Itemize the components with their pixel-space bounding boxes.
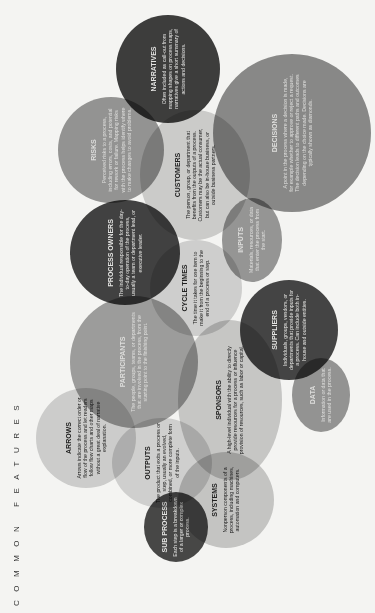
- inputs-title: INPUTS: [237, 227, 245, 253]
- inputs-desc: Materials, resources, or data that enter…: [248, 205, 267, 275]
- participants-desc: The people, groups, teams, or department…: [130, 312, 149, 412]
- process-owners-desc: The individual responsible for the day-t…: [118, 209, 143, 297]
- process-owners-title: PROCESS OWNERS: [107, 219, 115, 287]
- narratives-desc: Often included as call-out from mapping …: [161, 27, 186, 111]
- customers-desc: The person, group, or department that be…: [185, 127, 216, 223]
- page-title: COMMON FEATURES: [12, 397, 21, 606]
- sponsors-title: SPONSORS: [215, 380, 223, 420]
- suppliers-desc: Individuals, groups, vendors, or departm…: [282, 289, 307, 371]
- sponsors-desc: A high-level individual with the ability…: [226, 340, 245, 460]
- sub-process-desc: Each step is a breakdown of a larger or …: [172, 496, 191, 558]
- systems-title: SYSTEMS: [211, 483, 219, 516]
- sub-process-title: SUB PROCESS: [161, 502, 169, 553]
- data-title: DATA: [309, 386, 317, 404]
- customers-title: CUSTOMERS: [174, 153, 182, 198]
- data-desc: Information or data that are used in the…: [320, 365, 332, 425]
- suppliers-title: SUPPLIERS: [271, 310, 279, 350]
- risks-title: RISKS: [90, 139, 98, 160]
- cycle-times-title: CYCLE TIMES: [181, 264, 189, 311]
- decisions-title: DECISIONS: [271, 114, 279, 153]
- narratives-title: NARRATIVES: [150, 47, 158, 92]
- sub-process-circle: SUB PROCESS Each step is a breakdown of …: [144, 492, 208, 562]
- outputs-title: OUTPUTS: [144, 446, 152, 479]
- risks-desc: Perceived risks to a process, including …: [101, 107, 132, 193]
- systems-desc: Nonperson components of a process, inclu…: [222, 460, 241, 540]
- participants-title: PARTICIPANTS: [119, 337, 127, 388]
- cycle-times-desc: The time it takes for one item to make i…: [192, 247, 211, 329]
- arrows-desc: Arrows indicate the correct order or flo…: [76, 396, 107, 480]
- outputs-desc: The product that exits a process or step…: [155, 423, 180, 503]
- data-circle: DATA Information or data that are used i…: [292, 358, 350, 432]
- decisions-desc: A point in the process where a decision …: [282, 74, 313, 192]
- arrows-title: ARROWS: [65, 422, 73, 454]
